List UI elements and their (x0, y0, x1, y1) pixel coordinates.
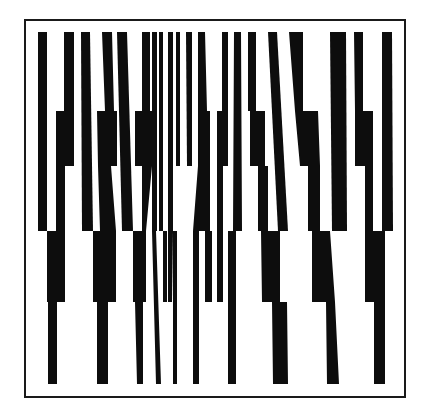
stripe-bar-13 (193, 32, 210, 384)
stripe-bars-group (38, 32, 393, 384)
op-art-canvas (0, 0, 429, 416)
stripe-bar-6 (133, 32, 152, 384)
stripe-bar-11 (173, 231, 177, 384)
stripe-bar-4 (93, 32, 117, 384)
stripe-bar-12 (186, 32, 192, 166)
stripe-bar-3 (81, 32, 93, 231)
stripe-bar-15 (217, 32, 228, 302)
stripe-bar-10 (176, 32, 180, 166)
stripe-bar-22 (382, 32, 393, 231)
stripe-bar-20 (330, 32, 347, 231)
stripe-bar-14 (205, 231, 212, 302)
stripe-bar-8 (159, 32, 167, 302)
stripe-bar-9 (168, 32, 173, 302)
stripe-bar-16 (228, 32, 242, 384)
stripe-bar-18 (268, 32, 288, 231)
stripe-bar-21 (354, 32, 385, 384)
stripe-bar-1 (38, 32, 47, 231)
stripe-bar-2 (47, 32, 74, 384)
stripe-bar-5 (117, 32, 133, 231)
